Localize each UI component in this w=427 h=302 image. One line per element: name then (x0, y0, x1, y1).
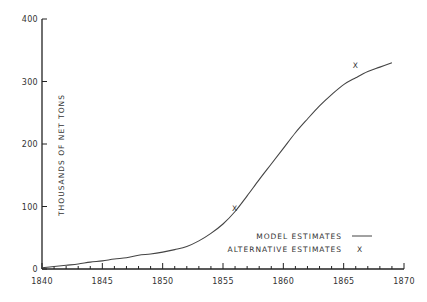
x-tick-label: 1850 (152, 277, 174, 286)
x-tick-label: 1855 (212, 277, 234, 286)
legend-alternative-marker-icon: X (357, 245, 363, 254)
y-axis-title: THOUSANDS OF NET TONS (57, 94, 66, 217)
y-tick-label: 0 (33, 265, 38, 274)
x-tick-label: 1870 (393, 277, 415, 286)
y-tick-label: 400 (22, 15, 38, 24)
x-tick-label: 1840 (31, 277, 53, 286)
legend-alternative-label: ALTERNATIVE ESTIMATES (228, 245, 342, 254)
y-tick-label: 300 (22, 78, 38, 87)
y-axis-title-text: THOUSANDS OF NET TONS (57, 94, 66, 217)
legend-model-label: MODEL ESTIMATES (256, 232, 342, 241)
x-tick-label: 1860 (273, 277, 295, 286)
alternative-estimate-marker: X (353, 61, 359, 70)
tonnage-chart: 0100200300400184018451850185518601865187… (0, 0, 427, 302)
y-tick-label: 100 (22, 203, 38, 212)
axes: 0100200300400184018451850185518601865187… (22, 15, 415, 286)
legend: MODEL ESTIMATES ALTERNATIVE ESTIMATES X (228, 232, 372, 254)
alternative-estimate-marker: X (232, 204, 238, 213)
y-tick-label: 200 (22, 140, 38, 149)
x-tick-label: 1865 (333, 277, 355, 286)
x-tick-label: 1845 (92, 277, 114, 286)
